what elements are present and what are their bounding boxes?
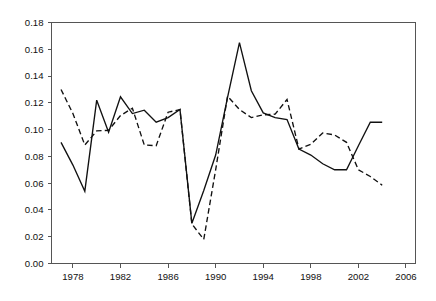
x-tick-label: 1978 [62,271,83,282]
y-axis-tick-marks [48,23,52,264]
data-series-layer [61,43,382,240]
x-tick-label: 2006 [395,271,416,282]
x-axis-tick-labels: 19781982198619901994199820022006 [62,271,416,282]
y-tick-label: 0.02 [25,231,44,242]
y-tick-label: 0.14 [25,70,44,81]
y-tick-label: 0.10 [25,124,44,135]
y-tick-label: 0.00 [25,258,44,269]
y-tick-label: 0.16 [25,44,44,55]
x-tick-label: 1990 [205,271,226,282]
y-tick-label: 0.12 [25,97,44,108]
y-axis-tick-labels: 0.000.020.040.060.080.100.120.140.160.18 [25,17,44,269]
y-tick-label: 0.18 [25,17,44,28]
y-tick-label: 0.08 [25,151,44,162]
y-tick-label: 0.04 [25,204,44,215]
x-axis-tick-marks [73,264,406,268]
x-tick-label: 1998 [300,271,321,282]
x-tick-label: 1982 [110,271,131,282]
line-chart: 0.000.020.040.060.080.100.120.140.160.18… [0,0,436,301]
plot-frame [52,23,416,264]
x-tick-label: 1986 [157,271,178,282]
y-tick-label: 0.06 [25,178,44,189]
chart-container: 0.000.020.040.060.080.100.120.140.160.18… [0,0,436,301]
data-line-dashed [61,89,382,239]
x-tick-label: 1994 [253,271,275,282]
x-tick-label: 2002 [348,271,369,282]
